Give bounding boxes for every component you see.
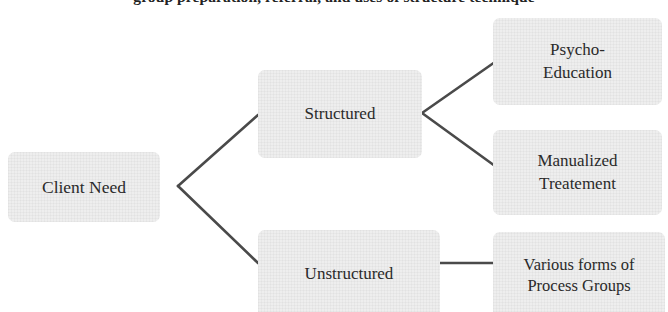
node-manualized-treatement: Manualized Treatement [493,130,662,215]
node-structured-label: Structured [299,103,382,124]
figure-canvas: group preparation, referral, and uses of… [0,0,668,312]
node-process-groups-label: Various forms of Process Groups [518,254,641,297]
edge-client-need-to-structured [178,115,258,186]
edge-client-need-to-unstructured [178,186,258,263]
node-process-groups: Various forms of Process Groups [493,232,665,312]
node-psycho-education: Psycho- Education [493,18,662,105]
node-psycho-education-label: Psycho- Education [537,39,618,83]
edge-structured-to-psycho-education [422,62,495,113]
node-unstructured-label: Unstructured [299,263,400,284]
node-client-need: Client Need [8,152,160,222]
edge-structured-to-manualized-treatement [422,113,495,166]
node-unstructured: Unstructured [258,230,440,312]
node-manualized-treatement-label: Manualized Treatement [531,150,623,194]
node-client-need-label: Client Need [36,176,132,198]
node-structured: Structured [258,70,422,158]
